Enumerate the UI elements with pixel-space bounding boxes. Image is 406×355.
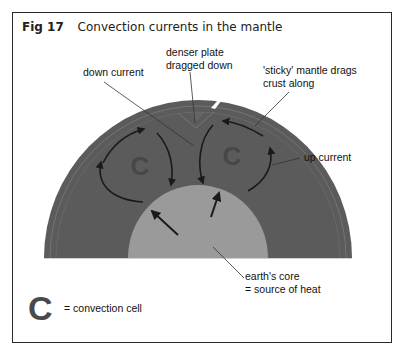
legend-symbol: C [28, 291, 53, 325]
label-earths-core: earth's core = source of heat [245, 270, 321, 295]
label-up-current: up current [304, 151, 351, 164]
label-line: dragged down [166, 59, 233, 72]
label-line: = source of heat [245, 283, 321, 296]
legend-text: = convection cell [64, 302, 142, 315]
label-denser-plate: denser plate dragged down [166, 46, 233, 71]
convection-cell-symbol-right: C [223, 141, 242, 171]
label-line: crust along [263, 77, 357, 90]
label-line: earth's core [245, 270, 321, 283]
label-line: denser plate [166, 46, 233, 59]
label-line: 'sticky' mantle drags [263, 64, 357, 77]
label-sticky-mantle: 'sticky' mantle drags crust along [263, 64, 357, 89]
convection-cell-symbol-left: C [131, 151, 150, 181]
label-down-current: down current [83, 66, 144, 79]
